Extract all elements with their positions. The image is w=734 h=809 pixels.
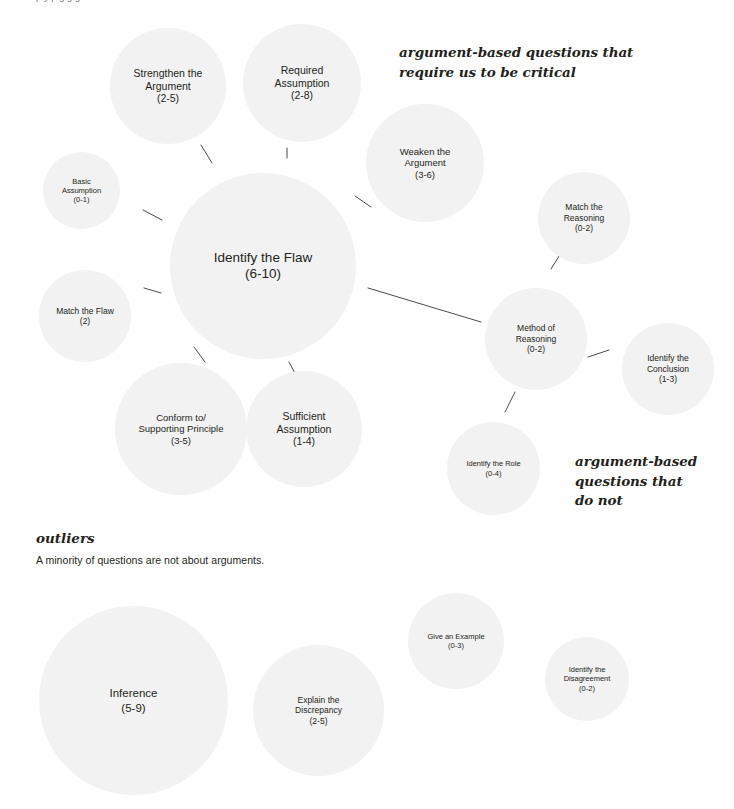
bubble-inference[interactable]: Inference (5-9) [39,606,228,795]
annotation-argument-based-critical: argument-based questions that require us… [399,43,633,82]
outliers-heading: outliers [36,530,95,546]
bubble-label: Inference (5-9) [106,686,162,714]
connector-weaken [355,196,371,207]
bubble-identify-the-role[interactable]: Identify the Role (0-4) [447,422,540,515]
bubble-conform-to-supporting-principle[interactable]: Conform to/ Supporting Principle (3-5) [115,363,247,495]
bubble-label: Method of Reasoning (0-2) [512,323,561,354]
bubble-label: Explain the Discrepancy (2-5) [291,695,346,726]
bubble-label: Basic Assumption (0-1) [58,177,105,204]
bubble-label: Identify the Disagreement (0-2) [560,665,615,692]
bubble-label: Identify the Role (0-4) [462,459,524,477]
bubble-method-of-reasoning[interactable]: Method of Reasoning (0-2) [485,288,587,390]
bubble-label: Weaken the Argument (3-6) [396,146,455,181]
connector-method-of-reasoning [368,288,481,322]
bubble-label: Conform to/ Supporting Principle (3-5) [134,412,227,447]
bubble-match-the-flaw[interactable]: Match the Flaw (2) [39,270,131,362]
bubble-label: Match the Flaw (2) [52,306,118,327]
bubble-label: Identify the Conclusion (1-3) [643,353,693,384]
bubble-required-assumption[interactable]: Required Assumption (2-8) [243,24,361,142]
bubble-label: Strengthen the Argument (2-5) [130,67,207,105]
bubble-match-the-reasoning[interactable]: Match the Reasoning (0-2) [538,172,630,264]
annotation-argument-based-do-not: argument-based questions that do not [575,452,697,511]
bubble-map-page: p y p g g g Strengthen the Argument (2-5… [0,0,734,809]
bubble-label: Give an Example (0-3) [423,632,488,650]
bubble-label: Required Assumption (2-8) [271,64,334,102]
outliers-subtitle: A minority of questions are not about ar… [36,554,264,566]
connector-identify-the-conclusion [588,350,609,357]
bubble-label: Sufficient Assumption (1-4) [273,410,336,448]
connector-strengthen [201,145,212,163]
bubble-label: Match the Reasoning (0-2) [560,202,609,233]
bubble-sufficient-assumption[interactable]: Sufficient Assumption (1-4) [246,371,362,487]
bubble-give-an-example[interactable]: Give an Example (0-3) [408,593,504,689]
connector-basic-assumption [143,210,162,220]
connector-match-the-flaw [144,288,161,293]
bubble-basic-assumption[interactable]: Basic Assumption (0-1) [43,152,120,229]
connector-conform [194,347,205,362]
cut-off-text-top: p y p g g g [36,0,396,7]
bubble-identify-the-flaw[interactable]: Identify the Flaw (6-10) [170,173,356,359]
bubble-identify-the-disagreement[interactable]: Identify the Disagreement (0-2) [545,637,629,721]
connector-identify-the-role [505,392,515,412]
bubble-explain-the-discrepancy[interactable]: Explain the Discrepancy (2-5) [253,645,384,776]
bubble-weaken-the-argument[interactable]: Weaken the Argument (3-6) [366,104,484,222]
bubble-strengthen-the-argument[interactable]: Strengthen the Argument (2-5) [110,28,226,144]
bubble-identify-the-conclusion[interactable]: Identify the Conclusion (1-3) [622,323,714,415]
bubble-label: Identify the Flaw (6-10) [210,250,316,283]
